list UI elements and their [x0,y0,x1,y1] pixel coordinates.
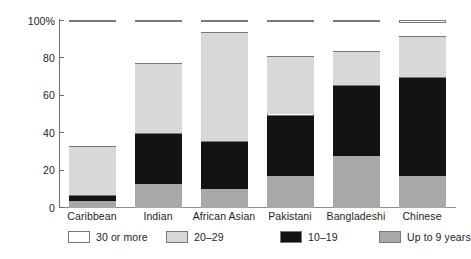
legend-swatch-icon [280,231,302,243]
bar-chinese [399,20,446,207]
bar-segment [135,21,182,63]
y-tick-label: 100% [28,15,55,27]
bar-segment [399,176,446,208]
legend-swatch-icon [166,231,188,243]
legend-swatch-icon [68,231,90,243]
bar-segment [267,56,314,115]
legend-label: 30 or more [96,231,148,243]
bar-african-asian [201,20,248,207]
bar-segment [135,184,182,208]
bar-segment [333,85,380,156]
x-label-chinese: Chinese [389,210,455,222]
legend-swatch-icon [379,231,401,243]
bar-segment [201,21,248,32]
legend-item-10-19[interactable]: 10–19 [280,229,338,245]
y-tick-label: 0 [49,202,55,214]
plot-area [59,20,455,207]
y-tick-0: 0 [59,207,64,208]
legend-label: Up to 9 years [407,231,471,243]
legend-label: 20–29 [194,231,224,243]
x-axis-line [59,207,456,208]
bar-segment [69,21,116,146]
y-tick-label: 60 [43,89,55,101]
bar-segment [201,141,248,190]
x-label-african-asian: African Asian [191,210,257,222]
legend-label: 10–19 [308,231,338,243]
x-label-pakistani: Pakistani [257,210,323,222]
bar-segment [333,156,380,208]
bar-segment [135,133,182,183]
bar-segment [135,63,182,133]
bar-pakistani [267,20,314,207]
bar-segment [399,36,446,77]
y-tick-label: 80 [43,52,55,64]
bar-segment [267,176,314,208]
bar-bangladeshi [333,20,380,207]
bar-segment [267,115,314,177]
bar-segment [333,21,380,51]
x-label-indian: Indian [125,210,191,222]
bar-segment [399,22,446,36]
bar-segment [267,21,314,56]
bar-segment [201,32,248,140]
y-tick-label: 20 [43,164,55,176]
x-label-bangladeshi: Bangladeshi [323,210,389,222]
x-label-caribbean: Caribbean [59,210,125,222]
bar-segment [333,51,380,85]
bar-caribbean [69,20,116,207]
bar-segment [69,146,116,195]
legend-item-up-to-9-years[interactable]: Up to 9 years [379,229,471,245]
bar-segment [201,189,248,208]
y-tick-label: 40 [43,127,55,139]
legend-item-30-or-more[interactable]: 30 or more [68,229,148,245]
bar-segment [69,195,116,201]
bar-segment [69,201,116,208]
chart-legend: 30 or more20–2910–19Up to 9 years [0,229,466,249]
bar-indian [135,20,182,207]
y-tick-mark [59,207,64,208]
legend-item-20-29[interactable]: 20–29 [166,229,224,245]
bar-segment [399,77,446,176]
